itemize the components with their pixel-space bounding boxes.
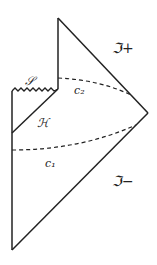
curve-c1 xyxy=(12,125,136,150)
horizon-label: ℋ xyxy=(37,116,51,130)
penrose-diagram: ℑ+ ℑ− 𝒮 ℋ c₂ c₁ xyxy=(0,0,157,265)
scri-plus-label: ℑ+ xyxy=(112,40,134,56)
curve-c2 xyxy=(58,78,131,95)
curve-c2-label: c₂ xyxy=(74,84,85,97)
scri-minus-label: ℑ− xyxy=(112,173,134,189)
curve-c1-label: c₁ xyxy=(45,157,56,170)
singularity-label: 𝒮 xyxy=(25,74,38,88)
event-horizon-line xyxy=(12,89,58,133)
singularity-zigzag xyxy=(12,88,58,91)
future-null-infinity-line xyxy=(58,18,148,113)
